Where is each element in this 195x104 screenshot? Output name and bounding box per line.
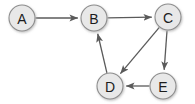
graph-svg: ABCDE [0, 0, 195, 104]
graph-edge-b-to-c [108, 17, 152, 18]
graph-edge-c-to-e [164, 30, 167, 69]
graph-node-label-c: C [163, 10, 173, 26]
graph-node-a[interactable]: A [9, 5, 35, 31]
graph-node-label-d: D [105, 79, 115, 95]
graph-node-d[interactable]: D [97, 73, 123, 99]
graph-node-b[interactable]: B [81, 5, 107, 31]
graph-edge-c-to-d [120, 27, 159, 73]
graph-node-label-b: B [89, 11, 98, 27]
nodes-layer: ABCDE [9, 4, 181, 99]
graph-node-label-e: E [158, 79, 167, 95]
graph-node-c[interactable]: C [155, 4, 181, 30]
graph-canvas: ABCDE [0, 0, 195, 104]
graph-node-e[interactable]: E [150, 73, 176, 99]
graph-edge-d-to-b [98, 34, 107, 73]
graph-node-label-a: A [17, 11, 27, 27]
